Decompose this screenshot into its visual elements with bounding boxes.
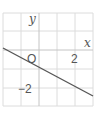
plotted-line	[3, 48, 93, 96]
origin-label: O	[27, 52, 36, 66]
grid	[3, 13, 93, 106]
x-tick-label: 2	[71, 52, 78, 66]
x-axis-label: x	[84, 36, 91, 50]
y-axis-label: y	[28, 12, 36, 26]
coordinate-plot: y x O 2 −2	[0, 0, 97, 114]
y-tick-label: −2	[18, 82, 32, 96]
